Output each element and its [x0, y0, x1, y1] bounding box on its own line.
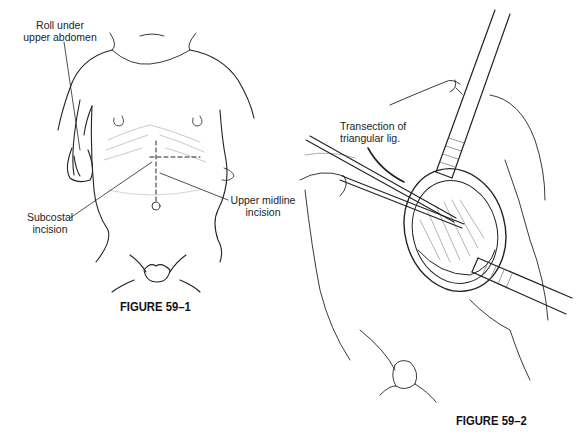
label-line: incision	[226, 206, 300, 218]
label-line: Subcostal	[22, 211, 78, 223]
label-line: Upper midline	[226, 194, 300, 206]
label-upper-midline-incision: Upper midline incision	[226, 194, 300, 218]
label-line: triangular lig.	[340, 132, 418, 144]
figure-59-2-caption: FIGURE 59–2	[456, 414, 527, 428]
label-subcostal-incision: Subcostal incision	[22, 211, 78, 235]
label-line: upper abdomen	[22, 31, 98, 43]
label-roll-under-upper-abdomen: Roll under upper abdomen	[22, 19, 98, 43]
label-transection-of-triangular-ligament: Transection of triangular lig.	[340, 120, 418, 144]
figure-59-1-illustration	[0, 0, 577, 442]
figure-59-1-caption: FIGURE 59–1	[120, 300, 191, 314]
label-line: incision	[22, 223, 78, 235]
label-line: Roll under	[22, 19, 98, 31]
label-line: Transection of	[340, 120, 418, 132]
